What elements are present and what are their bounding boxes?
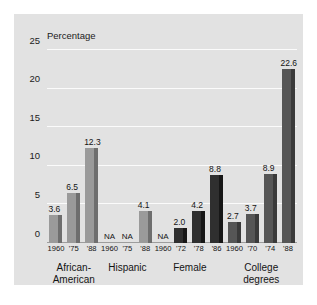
- x-axis-category-line: American: [47, 274, 101, 286]
- bar-side: [183, 228, 187, 243]
- bar-slot: 3.6: [47, 50, 64, 243]
- bar-side: [148, 211, 152, 243]
- bar-side: [94, 148, 98, 243]
- x-axis-group: 1960'72'78'86Female: [154, 245, 225, 286]
- bar-slot: 4.2: [190, 50, 207, 243]
- bar-slot: 6.5: [65, 50, 82, 243]
- x-axis-year-label: 1960: [155, 245, 172, 253]
- bar-face: [210, 175, 219, 243]
- bar-value-label: 6.5: [66, 183, 78, 192]
- bar-face: [228, 222, 237, 243]
- x-axis-year-label: '70: [244, 245, 261, 253]
- bar-slot: NA: [155, 50, 172, 243]
- bar-value-label: 2.0: [173, 218, 185, 227]
- bar-value-label: 4.2: [191, 201, 203, 210]
- bar-side: [237, 222, 241, 243]
- y-axis-tick-label: 20: [29, 74, 40, 84]
- bar-slot: 8.8: [208, 50, 225, 243]
- x-axis-category-label: Female: [154, 262, 225, 274]
- bar-side: [219, 175, 223, 243]
- x-axis-year-row: 1960'75'88: [101, 245, 155, 253]
- bar[interactable]: 3.6: [49, 215, 62, 243]
- bar[interactable]: 6.5: [67, 193, 80, 243]
- x-axis-year-label: '88: [83, 245, 100, 253]
- bar-value-label: 2.7: [227, 212, 239, 221]
- y-axis-tick-label: 0: [35, 229, 40, 239]
- bar-side: [273, 174, 277, 243]
- bar-slot: 3.7: [244, 50, 261, 243]
- bar-group: NA2.04.28.8: [154, 50, 225, 243]
- x-axis-year-row: 1960'72'78'86: [154, 245, 225, 253]
- bar-slot: 12.3: [83, 50, 100, 243]
- bar-value-label: 8.8: [209, 165, 221, 174]
- x-axis-category-label: Collegedegrees: [226, 262, 297, 286]
- bar-face: [139, 211, 148, 243]
- bar-group: 2.73.78.922.6: [226, 50, 297, 243]
- x-axis-year-label: '86: [208, 245, 225, 253]
- bar[interactable]: 3.7: [246, 214, 259, 243]
- bar-slot: 2.7: [226, 50, 243, 243]
- x-axis-year-label: '75: [65, 245, 82, 253]
- bar-value-label: 8.9: [263, 164, 275, 173]
- bar-value-label: 3.7: [245, 204, 257, 213]
- x-axis-year-label: 1960: [47, 245, 64, 253]
- bar[interactable]: 2.0: [174, 228, 187, 243]
- bar-slot: 8.9: [262, 50, 279, 243]
- bar-side: [76, 193, 80, 243]
- bar[interactable]: 8.8: [210, 175, 223, 243]
- bar-side: [201, 211, 205, 243]
- bar-side: [291, 69, 295, 243]
- x-axis: 1960'75'88African-American1960'75'88Hisp…: [47, 245, 297, 286]
- x-axis-year-label: '72: [172, 245, 189, 253]
- x-axis-year-label: 1960: [101, 245, 118, 253]
- x-axis-year-row: 1960'75'88: [47, 245, 101, 253]
- x-axis-category-line: Female: [154, 262, 225, 274]
- x-axis-category-line: African-: [47, 262, 101, 274]
- bar-slot: 2.0: [172, 50, 189, 243]
- y-axis-tick-label: 5: [35, 190, 40, 200]
- bar-slot: 22.6: [280, 50, 297, 243]
- bar-face: [49, 215, 58, 243]
- bar-side: [255, 214, 259, 243]
- bar[interactable]: 12.3: [85, 148, 98, 243]
- bar-face: [85, 148, 94, 243]
- x-axis-group: 1960'75'88African-American: [47, 245, 101, 286]
- bar-face: [246, 214, 255, 243]
- bar[interactable]: 4.1: [139, 211, 152, 243]
- bar-value-label: 12.3: [84, 138, 101, 147]
- bar-group: NANA4.1: [101, 50, 155, 243]
- bar[interactable]: 22.6: [282, 69, 295, 243]
- bar-na-label: NA: [158, 233, 169, 241]
- bar-face: [264, 174, 273, 243]
- x-axis-group: 1960'70'74'88Collegedegrees: [226, 245, 297, 286]
- x-axis-year-label: '88: [137, 245, 154, 253]
- x-axis-group: 1960'75'88Hispanic: [101, 245, 155, 286]
- bar-face: [174, 228, 183, 243]
- bar-na-label: NA: [122, 233, 133, 241]
- bar-group: 3.66.512.3: [47, 50, 101, 243]
- bar[interactable]: 4.2: [192, 211, 205, 243]
- y-axis-tick-label: 15: [29, 113, 40, 123]
- x-axis-year-label: '75: [119, 245, 136, 253]
- x-axis-year-row: 1960'70'74'88: [226, 245, 297, 253]
- x-axis-year-label: 1960: [226, 245, 243, 253]
- x-axis-category-label: African-American: [47, 262, 101, 286]
- x-axis-category-line: degrees: [226, 274, 297, 286]
- bar-slot: NA: [119, 50, 136, 243]
- y-axis-tick-label: 25: [29, 36, 40, 46]
- x-axis-category-label: Hispanic: [101, 262, 155, 274]
- bar-slot: 4.1: [137, 50, 154, 243]
- bar-groups: 3.66.512.3NANA4.1NA2.04.28.82.73.78.922.…: [47, 50, 297, 243]
- x-axis-year-label: '88: [280, 245, 297, 253]
- chart-panel: Percentage 0510152025 3.66.512.3NANA4.1N…: [14, 14, 303, 285]
- y-axis-tick-label: 10: [29, 152, 40, 162]
- bar-face: [192, 211, 201, 243]
- bar-side: [58, 215, 62, 243]
- bar[interactable]: 2.7: [228, 222, 241, 243]
- bar-face: [67, 193, 76, 243]
- bar[interactable]: 8.9: [264, 174, 277, 243]
- x-axis-category-line: Hispanic: [101, 262, 155, 274]
- bar-na-label: NA: [104, 233, 115, 241]
- y-axis-label: Percentage: [47, 31, 96, 41]
- bar-value-label: 22.6: [281, 59, 298, 68]
